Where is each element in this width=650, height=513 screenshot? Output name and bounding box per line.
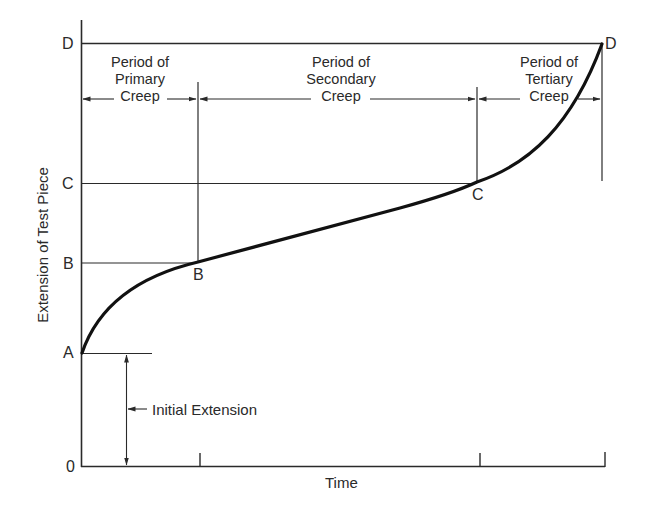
period-tertiary-label: Period of Tertiary Creep — [511, 54, 587, 105]
y-axis-title: Extension of Test Piece — [34, 167, 51, 323]
period-secondary-line2: Secondary — [296, 71, 386, 88]
period-secondary-line3: Creep — [296, 88, 386, 105]
y-label-b: B — [63, 255, 74, 272]
point-label-b: B — [193, 266, 204, 283]
period-tertiary-line3: Creep — [511, 88, 587, 105]
period-primary-line1: Period of — [104, 54, 176, 71]
y-label-d: D — [62, 35, 74, 52]
y-label-a: A — [63, 344, 74, 361]
period-primary-line2: Primary — [104, 71, 176, 88]
period-primary-label: Period of Primary Creep — [104, 54, 176, 105]
origin-label: 0 — [66, 458, 75, 475]
initial-extension-label: Initial Extension — [152, 401, 257, 418]
y-label-c: C — [62, 175, 74, 192]
period-primary-line3: Creep — [104, 88, 176, 105]
period-secondary-line1: Period of — [296, 54, 386, 71]
point-label-d: D — [605, 35, 617, 52]
period-tertiary-line1: Period of — [511, 54, 587, 71]
x-axis-title: Time — [325, 474, 358, 491]
point-label-c: C — [472, 186, 484, 203]
period-secondary-label: Period of Secondary Creep — [296, 54, 386, 105]
period-tertiary-line2: Tertiary — [511, 71, 587, 88]
